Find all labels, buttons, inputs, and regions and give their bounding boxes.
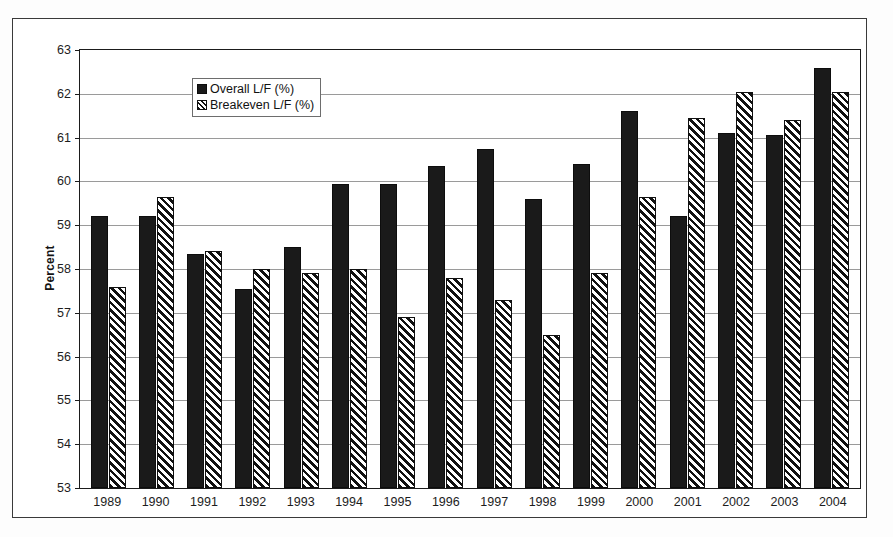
x-tick-label: 1996: [422, 495, 470, 509]
bar-overall: [814, 68, 831, 488]
solid-black-square-swatch: [197, 84, 207, 94]
y-tick-label: 54: [57, 437, 71, 451]
x-axis-labels: 1989199019911992199319941995199619971998…: [79, 495, 861, 509]
bar-overall: [477, 149, 494, 488]
x-tick-label: 1999: [567, 495, 615, 509]
x-tick-label: 1994: [325, 495, 373, 509]
x-tick-label: 2003: [760, 495, 808, 509]
bar-group: [132, 50, 180, 488]
bar-breakeven: [398, 317, 415, 488]
x-tick-label: 1998: [518, 495, 566, 509]
legend-item-label: Breakeven L/F (%): [210, 98, 314, 112]
legend-item: Breakeven L/F (%): [197, 98, 314, 112]
x-tick-label: 1993: [277, 495, 325, 509]
bar-breakeven: [784, 120, 801, 488]
bar-breakeven: [639, 197, 656, 488]
x-tick-label: 1997: [470, 495, 518, 509]
y-tick-label: 55: [57, 393, 71, 407]
bar-overall: [380, 184, 397, 488]
bar-overall: [621, 111, 638, 488]
y-tick-label: 63: [57, 43, 71, 57]
bar-group: [567, 50, 615, 488]
bar-overall: [139, 216, 156, 488]
x-tick-label: 1989: [83, 495, 131, 509]
y-tick-label: 58: [57, 262, 71, 276]
x-tick-label: 1995: [373, 495, 421, 509]
bar-breakeven: [446, 278, 463, 488]
y-tick-mark: [75, 488, 80, 489]
x-tick-label: 1991: [180, 495, 228, 509]
bar-breakeven: [543, 335, 560, 488]
bar-group: [325, 50, 373, 488]
bar-overall: [573, 164, 590, 488]
bar-overall: [187, 254, 204, 488]
bar-breakeven: [591, 273, 608, 488]
y-tick-label: 59: [57, 218, 71, 232]
bar-group: [84, 50, 132, 488]
plot-area: 6362616059585756555453 Overall L/F (%)Br…: [79, 49, 861, 489]
bar-overall: [332, 184, 349, 488]
bar-group: [760, 50, 808, 488]
bar-group: [711, 50, 759, 488]
y-tick-label: 62: [57, 87, 71, 101]
bar-group: [422, 50, 470, 488]
y-tick-label: 56: [57, 350, 71, 364]
bar-group: [374, 50, 422, 488]
figure-frame: Percent 6362616059585756555453 Overall L…: [12, 18, 867, 518]
legend-item-label: Overall L/F (%): [210, 82, 294, 96]
y-axis-title: Percent: [43, 245, 57, 290]
bar-overall: [235, 289, 252, 488]
bar-overall: [284, 247, 301, 488]
x-tick-label: 2004: [809, 495, 857, 509]
bar-breakeven: [157, 197, 174, 488]
diagonal-hatch-square-swatch: [197, 100, 207, 110]
legend-item: Overall L/F (%): [197, 82, 314, 96]
bar-overall: [525, 199, 542, 488]
bar-overall: [428, 166, 445, 488]
y-tick-label: 53: [57, 481, 71, 495]
bar-overall: [670, 216, 687, 488]
bar-breakeven: [109, 287, 126, 488]
bar-overall: [91, 216, 108, 488]
x-tick-label: 2002: [712, 495, 760, 509]
bar-group: [663, 50, 711, 488]
x-tick-label: 2001: [664, 495, 712, 509]
bar-chart: Percent 6362616059585756555453 Overall L…: [13, 19, 866, 517]
y-tick-label: 61: [57, 131, 71, 145]
bar-group: [470, 50, 518, 488]
x-tick-label: 1992: [228, 495, 276, 509]
bar-breakeven: [495, 300, 512, 488]
y-tick-label: 57: [57, 306, 71, 320]
bar-breakeven: [832, 92, 849, 488]
bar-breakeven: [205, 251, 222, 488]
chart-legend: Overall L/F (%)Breakeven L/F (%): [192, 78, 321, 117]
bar-breakeven: [688, 118, 705, 488]
bar-group: [518, 50, 566, 488]
bar-breakeven: [350, 269, 367, 488]
x-tick-label: 1990: [131, 495, 179, 509]
bar-overall: [718, 133, 735, 488]
bar-breakeven: [302, 273, 319, 488]
bar-breakeven: [253, 269, 270, 488]
x-tick-label: 2000: [615, 495, 663, 509]
bar-breakeven: [736, 92, 753, 488]
bar-group: [808, 50, 856, 488]
y-tick-label: 60: [57, 174, 71, 188]
bar-group: [615, 50, 663, 488]
bar-overall: [766, 135, 783, 488]
